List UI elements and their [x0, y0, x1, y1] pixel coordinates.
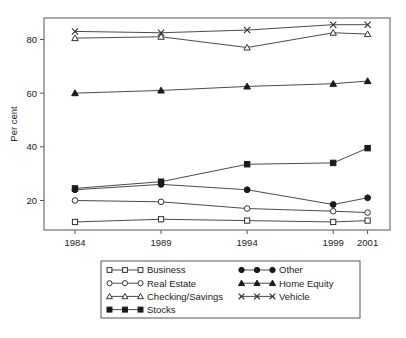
- legend-label: Checking/Savings: [147, 291, 223, 302]
- marker-open-circle: [158, 199, 164, 205]
- marker-filled-circle: [330, 202, 336, 208]
- chart-legend: BusinessReal EstateChecking/SavingsStock…: [101, 261, 360, 318]
- marker-open-circle: [72, 198, 78, 204]
- marker-open-circle: [122, 281, 127, 286]
- figure-container: 20406080 19841989199419992001 Per cent B…: [0, 0, 406, 338]
- marker-open-square: [158, 217, 163, 222]
- x-tick-label: 1994: [237, 237, 258, 248]
- marker-filled-square: [107, 307, 112, 312]
- legend-label: Other: [279, 264, 303, 275]
- line-chart: 20406080 19841989199419992001 Per cent B…: [0, 0, 406, 338]
- marker-open-circle: [107, 281, 112, 286]
- marker-open-square: [72, 219, 77, 224]
- marker-open-circle: [365, 210, 371, 216]
- legend-label: Stocks: [147, 304, 176, 315]
- marker-filled-circle: [244, 187, 250, 193]
- y-tick-label: 40: [26, 141, 37, 152]
- marker-open-circle: [138, 281, 143, 286]
- marker-filled-square: [330, 160, 335, 165]
- marker-filled-square: [365, 145, 370, 150]
- marker-filled-circle: [254, 267, 259, 272]
- marker-filled-square: [244, 162, 249, 167]
- marker-filled-circle: [158, 181, 164, 187]
- marker-open-square: [123, 268, 128, 273]
- legend-label: Home Equity: [279, 278, 334, 289]
- y-tick-label: 20: [26, 195, 37, 206]
- marker-open-circle: [244, 206, 250, 212]
- y-axis-title: Per cent: [8, 106, 19, 142]
- marker-filled-circle: [270, 267, 275, 272]
- x-tick-label: 2001: [357, 237, 378, 248]
- legend-label: Business: [147, 264, 186, 275]
- x-tick-label: 1999: [323, 237, 344, 248]
- marker-filled-square: [123, 307, 128, 312]
- marker-filled-circle: [239, 267, 244, 272]
- marker-open-square: [365, 218, 370, 223]
- marker-filled-circle: [365, 195, 371, 201]
- marker-open-square: [331, 219, 336, 224]
- marker-filled-circle: [72, 187, 78, 193]
- marker-open-square: [107, 268, 112, 273]
- legend-label: Vehicle: [279, 291, 310, 302]
- y-tick-label: 60: [26, 88, 37, 99]
- marker-open-circle: [330, 208, 336, 214]
- marker-filled-square: [138, 307, 143, 312]
- x-tick-label: 1989: [150, 237, 171, 248]
- marker-open-square: [245, 218, 250, 223]
- legend-label: Real Estate: [147, 278, 196, 289]
- x-tick-label: 1984: [64, 237, 85, 248]
- y-axis-label: Per cent: [8, 106, 19, 142]
- marker-open-square: [138, 268, 143, 273]
- y-tick-label: 80: [26, 34, 37, 45]
